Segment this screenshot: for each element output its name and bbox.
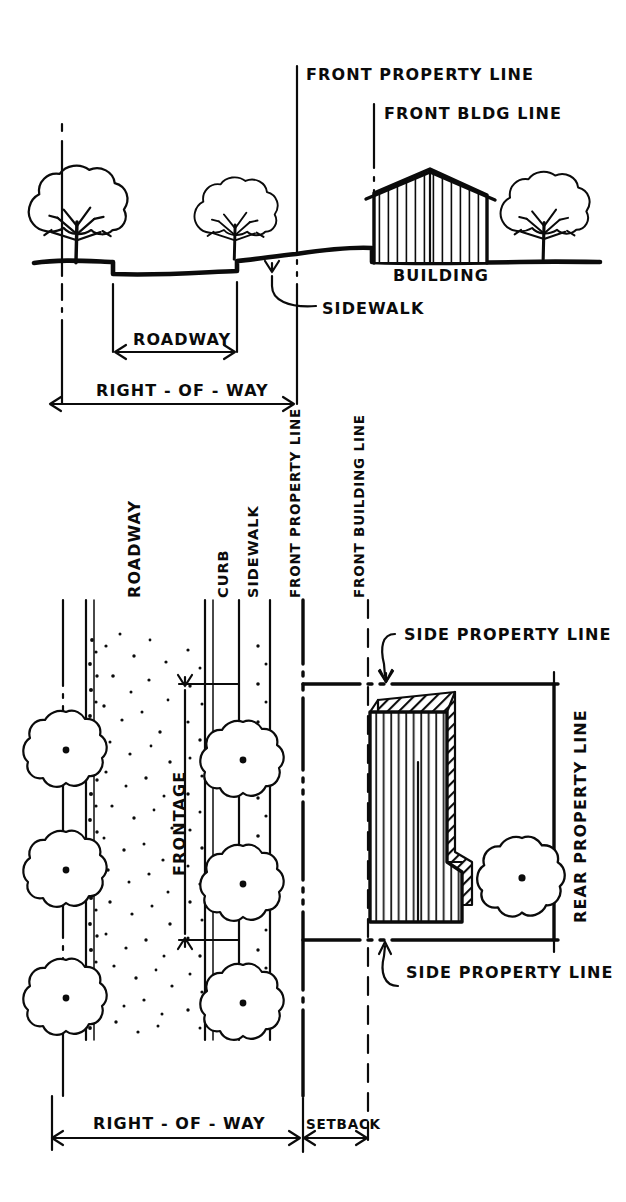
- tree-elevation-icon: [195, 177, 278, 259]
- side-property-line-bottom-leader: [379, 942, 398, 986]
- label-side-property-line-bottom: SIDE PROPERTY LINE: [406, 963, 614, 982]
- right-of-way-dimension-elev: RIGHT - OF - WAY: [50, 381, 294, 411]
- plan-section: FRONTAGE ROADWAY CURB SIDEWALK FRONT PRO…: [23, 408, 613, 1152]
- tree-plan-icon: [200, 964, 283, 1040]
- tree-plan-icon: [477, 837, 565, 917]
- label-setback: SETBACK: [306, 1116, 381, 1132]
- diagram-canvas: BUILDING SIDEWALK FRONT PROPERTY LINE FR…: [0, 0, 626, 1202]
- sidewalk-leader: [265, 261, 316, 306]
- elevation-section: BUILDING SIDEWALK FRONT PROPERTY LINE FR…: [29, 65, 600, 411]
- tree-plan-icon: [23, 831, 106, 907]
- tree-plan-icon: [200, 845, 283, 921]
- building-footprint-plan: [370, 692, 472, 922]
- tree-plan-icon: [200, 721, 283, 797]
- label-right-of-way-elev: RIGHT - OF - WAY: [96, 381, 269, 400]
- label-front-property-line-elev: FRONT PROPERTY LINE: [306, 65, 534, 84]
- roadway-dimension-elev: ROADWAY: [113, 282, 237, 359]
- label-roadway-plan: ROADWAY: [125, 500, 144, 598]
- ground-profile: [34, 248, 600, 275]
- label-sidewalk-plan: SIDEWALK: [245, 505, 261, 598]
- label-side-property-line-top: SIDE PROPERTY LINE: [404, 625, 612, 644]
- label-curb-plan: CURB: [215, 549, 231, 598]
- label-front-property-line-plan: FRONT PROPERTY LINE: [287, 408, 303, 598]
- drawing-sheet: BUILDING SIDEWALK FRONT PROPERTY LINE FR…: [0, 0, 626, 1202]
- tree-plan-icon: [23, 959, 106, 1035]
- tree-elevation-icon: [29, 166, 128, 263]
- label-front-building-line-plan: FRONT BUILDING LINE: [351, 414, 367, 598]
- label-rear-property-line: REAR PROPERTY LINE: [571, 709, 590, 923]
- tree-plan-icon: [23, 711, 106, 787]
- setback-dimension: SETBACK: [304, 1116, 381, 1145]
- label-roadway-elev: ROADWAY: [133, 330, 231, 349]
- label-right-of-way-plan: RIGHT - OF - WAY: [93, 1114, 266, 1133]
- label-front-bldg-line-elev: FRONT BLDG LINE: [384, 104, 562, 123]
- label-building-elev: BUILDING: [393, 266, 489, 285]
- side-property-line-top-leader: [379, 634, 395, 682]
- tree-elevation-icon: [501, 172, 590, 260]
- label-frontage: FRONTAGE: [170, 771, 189, 876]
- right-of-way-dimension-plan: RIGHT - OF - WAY: [52, 1096, 303, 1152]
- label-sidewalk-elev: SIDEWALK: [322, 299, 424, 318]
- building-elevation: [366, 169, 495, 263]
